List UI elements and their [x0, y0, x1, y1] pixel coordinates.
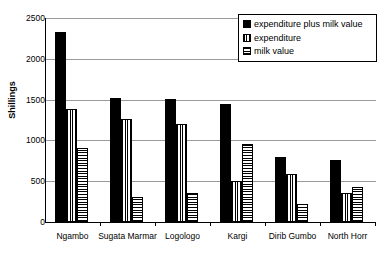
x-axis-category-label: Ngambo	[56, 231, 88, 241]
gridline	[46, 140, 376, 141]
x-axis-tick-mark	[100, 222, 101, 226]
legend-label: milk value	[254, 46, 294, 57]
x-axis-category-label: Logologo	[165, 231, 200, 241]
bar	[66, 109, 77, 222]
y-axis-tick-label: 1500	[5, 96, 45, 105]
legend-swatch-milk-value	[243, 47, 251, 55]
legend-item: milk value	[243, 46, 373, 57]
bar	[187, 193, 198, 222]
gridline	[46, 181, 376, 182]
chart-legend: expenditure plus milk value expenditure …	[238, 14, 377, 62]
bar	[275, 157, 286, 222]
legend-swatch-expenditure-plus-milk-value	[243, 20, 251, 28]
x-axis-tick-mark	[210, 222, 211, 226]
bar	[220, 104, 231, 222]
bar	[132, 197, 143, 222]
legend-swatch-expenditure	[243, 34, 251, 42]
legend-label: expenditure plus milk value	[254, 19, 363, 30]
bar	[121, 119, 132, 222]
y-axis-tick-label: 1000	[5, 136, 45, 145]
bar	[55, 32, 66, 222]
y-axis-tick-label: 0	[5, 218, 45, 227]
x-axis-tick-mark	[375, 222, 376, 226]
bar	[77, 148, 88, 222]
x-axis-category-label: Sugata Marmar	[98, 231, 157, 241]
gridline	[46, 100, 376, 101]
x-axis-category-label: Dirib Gumbo	[269, 231, 317, 241]
x-axis-category-label: North Horr	[328, 231, 368, 241]
y-axis-tick-group: 25002000150010005000	[0, 18, 45, 222]
bar-group	[55, 18, 88, 222]
bar	[352, 187, 363, 222]
bar-group	[110, 18, 143, 222]
legend-item: expenditure	[243, 33, 373, 44]
bar	[330, 160, 341, 222]
bar-group	[165, 18, 198, 222]
y-axis-tick-label: 2000	[5, 55, 45, 64]
legend-item: expenditure plus milk value	[243, 19, 373, 30]
x-axis-tick-mark	[155, 222, 156, 226]
bar	[286, 174, 297, 222]
bar	[242, 144, 253, 222]
x-axis-tick-mark	[320, 222, 321, 226]
bar	[297, 204, 308, 222]
x-axis-category-label: Kargi	[228, 231, 248, 241]
y-axis-tick-label: 2500	[5, 14, 45, 23]
y-axis-tick-label: 500	[5, 177, 45, 186]
legend-label: expenditure	[254, 33, 301, 44]
bar	[165, 99, 176, 222]
x-axis-tick-mark	[265, 222, 266, 226]
bar	[341, 193, 352, 222]
bar	[110, 98, 121, 222]
bar	[231, 181, 242, 222]
bar-chart: Shillings 25002000150010005000 expenditu…	[0, 0, 392, 260]
bar	[176, 124, 187, 222]
